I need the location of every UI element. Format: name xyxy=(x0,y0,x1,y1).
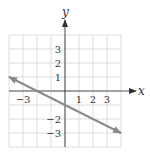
axes xyxy=(9,20,136,147)
axis-labels: x y xyxy=(61,5,145,98)
x-tick-label: 3 xyxy=(104,94,110,105)
x-tick-label: 2 xyxy=(90,94,96,105)
y-tick-label: −2 xyxy=(46,114,61,125)
coordinate-plane: −3123321−2−3 x y xyxy=(0,0,150,156)
y-axis-label: y xyxy=(61,5,69,19)
y-tick-label: 3 xyxy=(55,44,61,55)
y-tick-label: 2 xyxy=(55,58,61,69)
y-tick-label: 1 xyxy=(55,72,61,83)
x-tick-label: −3 xyxy=(16,94,31,105)
y-tick-label: −3 xyxy=(46,128,61,139)
x-axis-label: x xyxy=(138,84,145,98)
x-tick-label: 1 xyxy=(76,94,82,105)
